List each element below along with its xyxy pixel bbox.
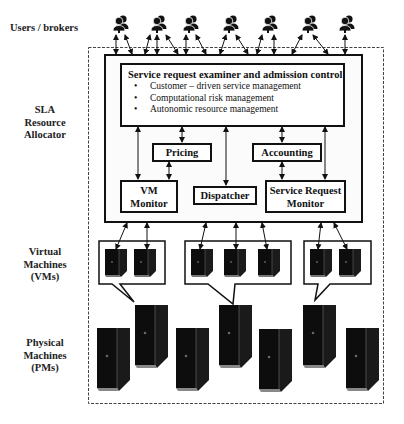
dispatcher-label: Dispatcher	[201, 190, 250, 201]
dispatcher-box: Dispatcher	[193, 186, 257, 205]
vm-monitor-label-line1: VM	[122, 185, 176, 198]
service-request-monitor-box: Service Request Monitor	[265, 180, 346, 213]
examiner-item: Computational risk management	[128, 93, 339, 105]
accounting-box: Accounting	[252, 143, 322, 162]
examiner-list: Customer – driven service management Com…	[128, 81, 339, 116]
examiner-item: Autonomic resource management	[128, 104, 339, 116]
srm-label-line1: Service Request	[267, 185, 344, 198]
vm-monitor-label-line2: Monitor	[122, 198, 176, 211]
pricing-box: Pricing	[152, 143, 212, 162]
user-arrows	[116, 35, 345, 54]
vm-monitor-box: VM Monitor	[120, 180, 178, 213]
physical-machine-icons	[97, 305, 379, 392]
virtual-machine-icons	[105, 249, 361, 277]
accounting-label: Accounting	[261, 147, 312, 158]
pricing-label: Pricing	[166, 147, 199, 158]
examiner-item: Customer – driven service management	[128, 81, 339, 93]
examiner-title: Service request examiner and admission c…	[128, 69, 339, 80]
srm-label-line2: Monitor	[267, 198, 344, 211]
user-icons	[113, 15, 355, 33]
service-request-examiner-box: Service request examiner and admission c…	[120, 63, 345, 127]
